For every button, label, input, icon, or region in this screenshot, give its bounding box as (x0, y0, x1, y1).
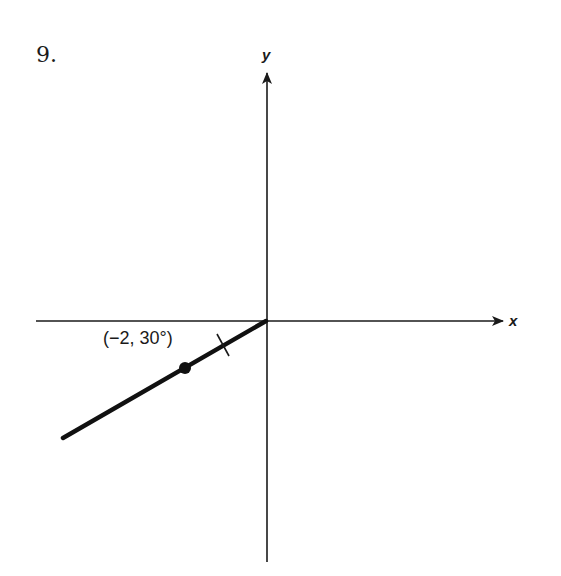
y-axis-label: y (262, 46, 270, 63)
problem-number: 9. (36, 42, 57, 67)
polar-plot-figure: 9. y x (−2, 30°) (0, 0, 561, 576)
plot-canvas (0, 0, 561, 576)
x-axis-label: x (509, 312, 517, 329)
point-label: (−2, 30°) (103, 328, 173, 349)
point-marker (179, 362, 191, 374)
